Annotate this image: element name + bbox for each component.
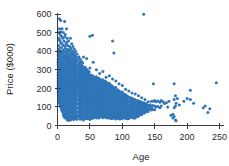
data-point bbox=[165, 101, 168, 104]
data-point bbox=[58, 27, 61, 30]
data-point bbox=[134, 92, 137, 95]
data-point bbox=[173, 115, 176, 118]
y-axis-title: Price ($000) bbox=[4, 43, 15, 95]
data-point bbox=[88, 35, 91, 38]
data-point bbox=[111, 39, 114, 42]
data-point bbox=[176, 97, 179, 100]
data-points-group bbox=[57, 13, 218, 122]
data-point bbox=[147, 100, 150, 103]
data-point bbox=[206, 111, 209, 114]
data-point bbox=[95, 68, 98, 71]
data-point bbox=[66, 37, 69, 40]
data-point bbox=[143, 98, 146, 101]
data-point bbox=[88, 66, 91, 69]
data-point bbox=[127, 90, 130, 93]
data-point bbox=[173, 82, 176, 85]
data-point bbox=[85, 57, 88, 60]
data-point bbox=[189, 98, 192, 101]
data-point bbox=[67, 39, 70, 42]
data-point bbox=[105, 76, 108, 79]
plot-svg: 0100200300400500600 050100150200250 Age … bbox=[0, 0, 229, 166]
data-point bbox=[108, 74, 111, 77]
data-point bbox=[160, 104, 163, 107]
data-point bbox=[92, 61, 95, 64]
data-point bbox=[75, 118, 78, 121]
data-point bbox=[59, 19, 62, 22]
x-tick-label: 250 bbox=[212, 132, 227, 142]
data-point bbox=[186, 97, 189, 100]
data-point bbox=[70, 42, 73, 45]
data-point bbox=[189, 89, 192, 92]
scatter-plot-figure: 0100200300400500600 050100150200250 Age … bbox=[0, 0, 229, 166]
y-axis-ticks: 0100200300400500600 bbox=[36, 9, 60, 131]
data-point bbox=[82, 56, 85, 59]
data-point bbox=[131, 91, 134, 94]
data-point bbox=[114, 79, 117, 82]
y-tick-label: 300 bbox=[36, 65, 51, 75]
data-point bbox=[69, 37, 72, 40]
data-point bbox=[204, 104, 207, 107]
data-point bbox=[215, 81, 218, 84]
data-point bbox=[64, 45, 67, 48]
data-point bbox=[152, 82, 155, 85]
data-point bbox=[98, 72, 101, 75]
data-point bbox=[64, 33, 67, 36]
data-point bbox=[142, 13, 145, 16]
data-point bbox=[118, 82, 121, 85]
data-point bbox=[174, 104, 177, 107]
data-point bbox=[62, 39, 65, 42]
data-point bbox=[153, 108, 156, 111]
data-point bbox=[81, 62, 84, 65]
x-axis-title: Age bbox=[133, 151, 150, 162]
y-tick-label: 600 bbox=[36, 9, 51, 19]
data-point bbox=[88, 70, 91, 73]
data-point bbox=[75, 52, 78, 55]
x-tick-label: 150 bbox=[147, 132, 162, 142]
data-point bbox=[192, 102, 195, 105]
data-point bbox=[182, 100, 185, 103]
data-point bbox=[121, 84, 124, 87]
y-tick-label: 0 bbox=[46, 121, 51, 131]
data-point bbox=[167, 100, 170, 103]
data-point bbox=[63, 20, 66, 23]
data-point bbox=[137, 94, 140, 97]
data-point bbox=[178, 104, 181, 107]
data-point bbox=[140, 96, 143, 99]
y-tick-label: 200 bbox=[36, 84, 51, 94]
x-tick-label: 0 bbox=[55, 132, 60, 142]
data-point bbox=[91, 34, 94, 37]
data-point bbox=[112, 52, 115, 55]
data-point bbox=[111, 78, 114, 81]
data-point bbox=[72, 45, 75, 48]
data-point bbox=[65, 27, 68, 30]
data-point bbox=[175, 119, 178, 122]
data-point bbox=[75, 56, 78, 59]
data-point bbox=[166, 105, 169, 108]
x-tick-label: 200 bbox=[180, 132, 195, 142]
data-point bbox=[208, 107, 211, 110]
y-tick-label: 100 bbox=[36, 102, 51, 112]
data-point bbox=[175, 102, 178, 105]
y-tick-label: 500 bbox=[36, 28, 51, 38]
x-tick-label: 100 bbox=[115, 132, 130, 142]
data-point bbox=[61, 27, 64, 30]
data-point bbox=[174, 94, 177, 97]
data-point bbox=[173, 98, 176, 101]
y-tick-label: 400 bbox=[36, 46, 51, 56]
data-point bbox=[124, 88, 127, 91]
data-point bbox=[101, 70, 104, 73]
x-tick-label: 50 bbox=[85, 132, 95, 142]
